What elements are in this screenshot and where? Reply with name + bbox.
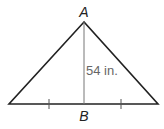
height-measurement-label: 54 in. (86, 63, 118, 78)
point-label-b: B (79, 108, 88, 124)
vertex-label-a: A (78, 4, 88, 20)
triangle-diagram: A B 54 in. (0, 0, 164, 129)
